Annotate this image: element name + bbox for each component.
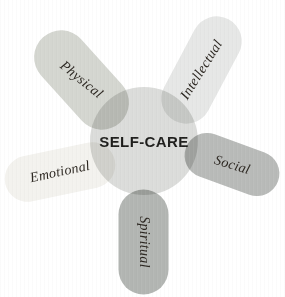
petal-label-physical: Physical xyxy=(56,58,105,102)
center-title: SELF-CARE xyxy=(99,133,188,150)
petal-spiritual: Spiritual xyxy=(118,190,168,295)
flower-shapes: Physical Intellectual Emotional Social S… xyxy=(0,0,285,297)
center-circle: SELF-CARE xyxy=(90,87,198,195)
petal-label-spiritual: Spiritual xyxy=(135,216,151,268)
petal-label-intellectual: Intellectual xyxy=(176,37,225,103)
petal-label-social: Social xyxy=(212,151,252,177)
petal-label-emotional: Emotional xyxy=(28,158,91,186)
self-care-diagram: Physical Intellectual Emotional Social S… xyxy=(0,0,285,297)
